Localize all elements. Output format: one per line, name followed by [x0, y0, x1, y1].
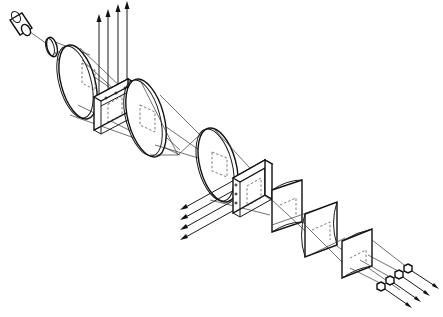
detector-icon: [386, 276, 394, 285]
cylindrical-lens-3-icon: [342, 229, 372, 278]
beam-splitter-2-icon: [233, 160, 272, 217]
detector-icon: [395, 270, 403, 279]
cylindrical-lens-1-icon: [272, 180, 302, 232]
detector-icon: [377, 282, 385, 291]
optical-diagram: [0, 0, 443, 317]
right-beams: [385, 271, 439, 308]
cylindrical-lens-2-icon: [302, 202, 338, 257]
detector-icon: [404, 264, 412, 273]
small-lens-icon: [44, 36, 60, 58]
light-source-icon: [10, 10, 33, 37]
